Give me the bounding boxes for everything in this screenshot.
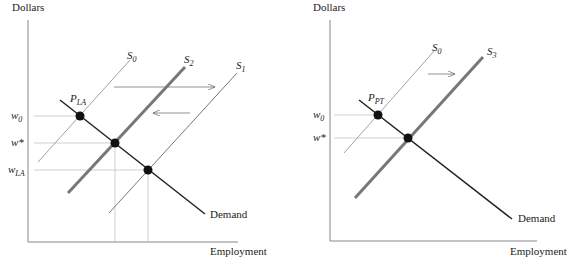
right-point-ppt <box>374 111 383 120</box>
right-demand-label: Demand <box>518 212 555 224</box>
charts-canvas <box>0 0 573 277</box>
right-guides <box>334 115 408 138</box>
left-s1-label: S1 <box>236 59 246 74</box>
left-s1-curve <box>109 73 237 213</box>
left-wla-label: wLA <box>8 163 25 178</box>
right-w0-label: w0 <box>313 108 324 123</box>
right-s3-curve <box>355 57 483 198</box>
left-wstar-label: w* <box>11 136 24 148</box>
left-s2-label: S2 <box>184 53 194 68</box>
left-point-wla <box>144 166 153 175</box>
right-demand-curve <box>359 100 512 219</box>
left-s2-curve <box>68 67 185 193</box>
right-s3-label: S3 <box>487 45 497 60</box>
left-y-axis-label: Dollars <box>12 1 44 13</box>
right-y-axis-label: Dollars <box>313 1 345 13</box>
right-x-axis-label: Employment <box>510 245 567 257</box>
left-demand-label: Demand <box>210 208 247 220</box>
right-s0-curve <box>344 50 435 153</box>
left-guides <box>34 116 148 242</box>
left-s0-label: S0 <box>127 49 137 64</box>
left-w0-label: w0 <box>11 109 22 124</box>
right-s0-label: S0 <box>432 41 442 56</box>
left-point-wstar <box>111 139 120 148</box>
right-wstar-label: w* <box>313 131 326 143</box>
right-point-wstar <box>404 134 413 143</box>
left-pla-label: PLA <box>70 92 86 107</box>
right-ppt-label: PPT <box>368 91 384 106</box>
left-x-axis-label: Employment <box>210 245 267 257</box>
left-point-pla <box>76 112 85 121</box>
